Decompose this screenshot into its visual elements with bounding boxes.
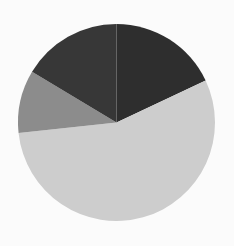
pie-chart	[0, 0, 234, 246]
pie-chart-canvas	[0, 0, 234, 246]
pie-slices	[18, 24, 215, 221]
